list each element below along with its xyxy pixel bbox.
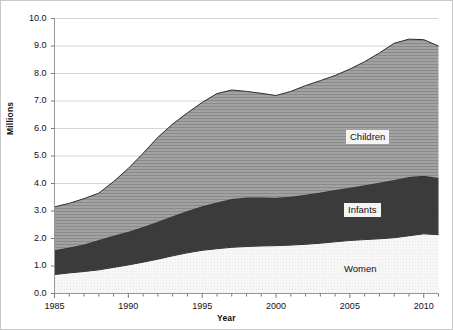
series-label-women: Women [340, 262, 381, 276]
x-axis-title: Year [217, 313, 236, 323]
y-tick-label: 7.0 [13, 95, 47, 105]
x-tick-label: 1995 [182, 301, 222, 311]
y-tick-label: 1.0 [13, 260, 47, 270]
y-tick-label: 2.0 [13, 233, 47, 243]
y-tick-label: 9.0 [13, 40, 47, 50]
y-tick-label: 8.0 [13, 68, 47, 78]
series-label-infants: Infants [344, 203, 381, 217]
y-tick-label: 0.0 [13, 288, 47, 298]
x-tick-label: 2010 [404, 301, 444, 311]
chart-canvas [1, 1, 453, 330]
y-tick-label: 6.0 [13, 123, 47, 133]
y-tick-label: 3.0 [13, 205, 47, 215]
stacked-area-chart: Millions Year 0.01.02.03.04.05.06.07.08.… [0, 0, 453, 330]
series-label-children: Children [346, 130, 389, 144]
x-tick-label: 1990 [108, 301, 148, 311]
y-tick-label: 10.0 [13, 13, 47, 23]
y-tick-label: 5.0 [13, 150, 47, 160]
area-series-group [55, 39, 439, 293]
y-tick-label: 4.0 [13, 178, 47, 188]
x-tick-label: 2000 [256, 301, 296, 311]
x-tick-label: 2005 [330, 301, 370, 311]
x-tick-label: 1985 [35, 301, 75, 311]
